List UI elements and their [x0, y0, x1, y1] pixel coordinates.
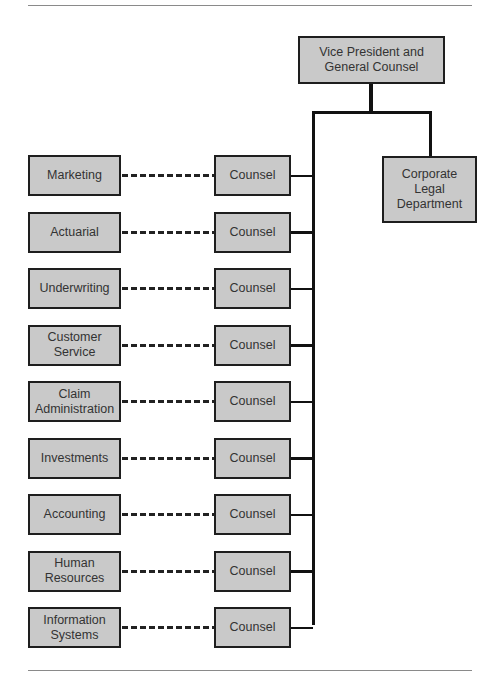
counsel-connector-line: [291, 401, 313, 404]
counsel-connector-line: [291, 231, 313, 234]
counsel-box: Counsel: [214, 494, 291, 535]
department-box: Marketing: [28, 155, 121, 196]
branch-horizontal-line: [312, 111, 432, 114]
counsel-trunk-line: [312, 111, 315, 625]
counsel-box: Counsel: [214, 155, 291, 196]
top-rule: [28, 5, 472, 6]
dotted-reporting-line: [122, 457, 214, 460]
dotted-reporting-line: [122, 231, 214, 234]
dotted-reporting-line: [122, 626, 214, 629]
department-box: Customer Service: [28, 325, 121, 366]
legal-drop-line: [429, 111, 432, 157]
dotted-reporting-line: [122, 174, 214, 177]
counsel-connector-line: [291, 457, 313, 460]
department-box: Claim Administration: [28, 381, 121, 422]
counsel-box: Counsel: [214, 268, 291, 309]
dotted-reporting-line: [122, 344, 214, 347]
dotted-reporting-line: [122, 287, 214, 290]
vp-general-counsel-box: Vice President and General Counsel: [298, 36, 445, 84]
counsel-connector-line: [291, 288, 313, 291]
counsel-box: Counsel: [214, 325, 291, 366]
department-box: Human Resources: [28, 551, 121, 592]
department-box: Investments: [28, 438, 121, 479]
vp-stem-line: [369, 84, 373, 113]
counsel-connector-line: [291, 344, 313, 347]
counsel-box: Counsel: [214, 438, 291, 479]
dotted-reporting-line: [122, 513, 214, 516]
dotted-reporting-line: [122, 400, 214, 403]
counsel-box: Counsel: [214, 551, 291, 592]
counsel-connector-line: [291, 175, 313, 178]
department-box: Underwriting: [28, 268, 121, 309]
counsel-connector-line: [291, 514, 313, 517]
dotted-reporting-line: [122, 570, 214, 573]
department-box: Information Systems: [28, 607, 121, 648]
department-box: Actuarial: [28, 212, 121, 253]
counsel-connector-line: [291, 627, 313, 630]
department-box: Accounting: [28, 494, 121, 535]
counsel-box: Counsel: [214, 381, 291, 422]
bottom-rule: [28, 670, 472, 671]
corporate-legal-department-box: Corporate Legal Department: [382, 156, 477, 223]
counsel-box: Counsel: [214, 212, 291, 253]
counsel-box: Counsel: [214, 607, 291, 648]
counsel-connector-line: [291, 570, 313, 573]
